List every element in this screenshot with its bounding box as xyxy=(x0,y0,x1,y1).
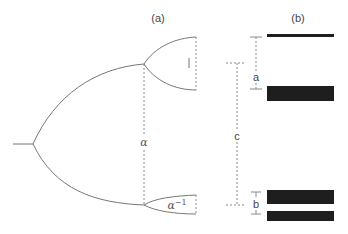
dimension-c: c xyxy=(226,63,246,205)
dimension-b: b xyxy=(251,192,261,214)
dimension-c-label: c xyxy=(234,130,240,142)
panel-a: (a) α−1 α xyxy=(13,12,196,214)
branch-upper xyxy=(33,64,144,144)
panel-b: (b) a c b xyxy=(226,12,334,221)
alpha-inverse-label: α−1 xyxy=(167,198,186,212)
alpha-label: α xyxy=(140,136,148,149)
diagram-canvas: (a) α−1 α (b) xyxy=(0,0,348,234)
level-bar-2 xyxy=(267,86,334,101)
panel-a-label: (a) xyxy=(151,12,164,24)
dimension-a-label: a xyxy=(253,71,260,83)
dimension-a: a xyxy=(250,37,262,89)
dimension-b-label: b xyxy=(253,198,259,210)
upper-fork-top xyxy=(144,37,196,64)
level-bar-3 xyxy=(267,190,334,204)
level-bar-4 xyxy=(267,211,334,221)
level-bar-1 xyxy=(267,34,334,37)
branch-lower xyxy=(33,144,144,205)
panel-b-label: (b) xyxy=(291,12,304,24)
upper-fork-bottom xyxy=(144,64,196,90)
